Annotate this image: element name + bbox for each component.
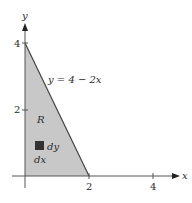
double-integral-region-diagram: 2 4 2 4 x y y = 4 − 2x R dy dx xyxy=(0,0,192,203)
dy-label: dy xyxy=(47,141,59,152)
curve-label: y = 4 − 2x xyxy=(47,74,102,85)
y-tick-label-4: 4 xyxy=(14,38,20,49)
region-label: R xyxy=(36,114,45,125)
x-axis-arrow-icon xyxy=(172,173,180,179)
x-axis-label: x xyxy=(182,170,188,181)
dx-label: dx xyxy=(34,154,46,165)
y-axis-label: y xyxy=(21,10,28,21)
x-tick-label-4: 4 xyxy=(150,181,156,192)
x-tick-label-2: 2 xyxy=(86,181,92,192)
y-tick-label-2: 2 xyxy=(14,104,20,115)
area-element-square xyxy=(35,141,44,150)
y-axis-arrow-icon xyxy=(22,23,28,31)
